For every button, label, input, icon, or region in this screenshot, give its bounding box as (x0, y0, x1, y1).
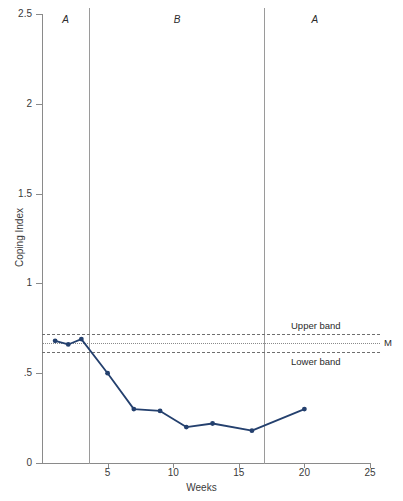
data-point (79, 337, 84, 342)
series-line (55, 339, 304, 431)
data-point (210, 421, 215, 426)
data-point (158, 409, 163, 414)
data-point (302, 407, 307, 412)
coping-index-chart: 0.511.522.5 510152025 ABA Upper bandMLow… (0, 0, 403, 501)
data-point (66, 342, 71, 347)
y-axis-title: Coping Index (14, 183, 25, 293)
data-point (131, 407, 136, 412)
x-axis-title: Weeks (0, 482, 403, 493)
data-point (250, 428, 255, 433)
series-plot (0, 0, 403, 501)
data-point (184, 425, 189, 430)
data-point (53, 338, 58, 343)
data-point (105, 371, 110, 376)
